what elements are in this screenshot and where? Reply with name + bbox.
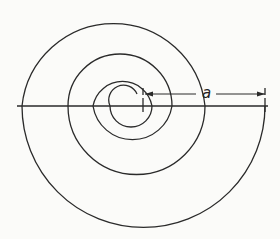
spiral-arc-1 xyxy=(109,85,137,106)
spiral-arc-6 xyxy=(68,106,205,175)
spiral-diagram: a xyxy=(0,0,280,239)
dimension-label-a: a xyxy=(202,86,211,101)
spiral-arc-8 xyxy=(22,106,265,227)
arrowhead-right-icon xyxy=(257,92,265,97)
spiral-arc-4 xyxy=(93,106,172,140)
spiral-arc-2 xyxy=(110,106,152,127)
spiral-arcs xyxy=(22,24,265,228)
spiral-arc-5 xyxy=(68,54,172,106)
spiral-drawing xyxy=(0,0,280,239)
